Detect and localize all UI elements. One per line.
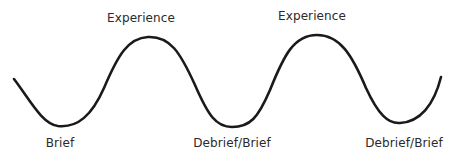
peak-label-experience-2: Experience [278, 10, 346, 22]
trough-label-debrief-brief-2: Debrief/Brief [365, 137, 443, 149]
trough-label-brief: Brief [46, 137, 75, 149]
peak-label-experience-1: Experience [107, 12, 175, 24]
wave-diagram: Experience Experience Brief Debrief/Brie… [0, 0, 474, 163]
trough-label-debrief-brief-1: Debrief/Brief [193, 137, 271, 149]
